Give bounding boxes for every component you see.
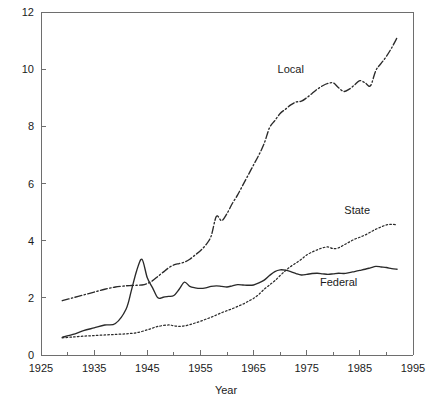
y-axis-tick-marks xyxy=(41,12,46,355)
chart-container: 024681012 192519351945195519651975198519… xyxy=(0,0,432,403)
x-tick-label: 1935 xyxy=(82,362,106,374)
x-tick-label: 1955 xyxy=(188,362,212,374)
series-line-local xyxy=(62,38,397,301)
x-tick-label: 1925 xyxy=(29,362,53,374)
series-label-local: Local xyxy=(278,63,304,75)
series-line-federal xyxy=(62,259,397,337)
y-axis-tick-labels: 024681012 xyxy=(22,6,34,361)
y-tick-label: 2 xyxy=(28,292,34,304)
x-tick-label: 1965 xyxy=(241,362,265,374)
x-tick-label: 1975 xyxy=(294,362,318,374)
x-axis-title: Year xyxy=(215,384,238,396)
series-annotation-labels: LocalStateFederal xyxy=(278,63,370,287)
y-tick-label: 10 xyxy=(22,63,34,75)
y-tick-label: 6 xyxy=(28,178,34,190)
plot-axes xyxy=(41,12,413,355)
x-axis-tick-labels: 19251935194519551965197519851995 xyxy=(29,362,425,374)
x-tick-label: 1945 xyxy=(135,362,159,374)
y-tick-label: 4 xyxy=(28,235,34,247)
y-tick-label: 0 xyxy=(28,349,34,361)
x-tick-label: 1985 xyxy=(348,362,372,374)
axis-frame xyxy=(41,12,413,355)
series-label-state: State xyxy=(344,204,370,216)
series-label-federal: Federal xyxy=(320,276,357,288)
y-tick-label: 12 xyxy=(22,6,34,18)
line-chart: 024681012 192519351945195519651975198519… xyxy=(0,0,432,403)
x-tick-label: 1995 xyxy=(401,362,425,374)
y-tick-label: 8 xyxy=(28,120,34,132)
data-series-group xyxy=(62,38,397,338)
x-axis-tick-marks xyxy=(41,350,413,355)
